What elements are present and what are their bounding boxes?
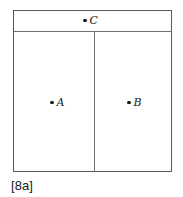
- diagram-outer-box: [13, 10, 172, 172]
- dot-icon: [127, 101, 131, 105]
- point-marker-c: C: [83, 15, 98, 26]
- dot-icon: [50, 101, 54, 105]
- dot-icon: [83, 19, 87, 23]
- point-label-b: B: [134, 97, 142, 108]
- vertical-divider-line: [94, 31, 95, 172]
- figure-caption: [8a]: [11, 178, 33, 193]
- point-marker-a: A: [50, 97, 65, 108]
- point-label-a: A: [57, 97, 65, 108]
- point-label-c: C: [90, 15, 99, 26]
- point-marker-b: B: [127, 97, 142, 108]
- horizontal-divider-line: [13, 31, 172, 32]
- figure-diagram: C A B [8a]: [0, 0, 183, 197]
